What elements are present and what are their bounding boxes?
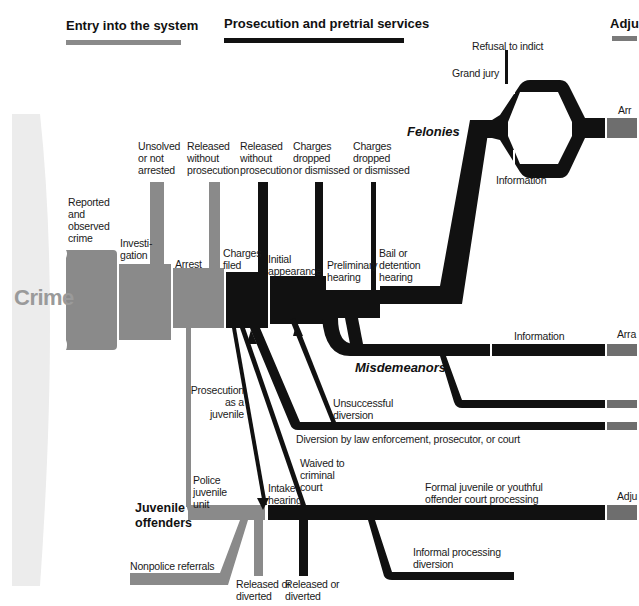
- label-released-2: Released without prosecution: [240, 140, 292, 176]
- label-formal-juvenile: Formal juvenile or youthful offender cou…: [425, 481, 543, 505]
- label-bail: Bail or detention hearing: [379, 247, 420, 283]
- label-intake-hearing: Intake hearing: [268, 482, 302, 506]
- stage-entry-title: Entry into the system: [66, 18, 198, 33]
- label-informal-processing: Informal processing diversion: [413, 546, 501, 570]
- label-released-diverted-2: Released or diverted: [285, 578, 339, 602]
- stage-prosecution-bar: [224, 38, 404, 43]
- label-dropped-2: Charges dropped or dismissed: [353, 140, 410, 176]
- crime-label: Crime: [14, 285, 74, 311]
- label-reported: Reported and observed crime: [68, 196, 110, 244]
- label-adjudication-juv: Adju: [617, 490, 637, 502]
- category-juvenile: Juvenile offenders: [135, 501, 192, 531]
- label-released-diverted-1: Released or diverted: [236, 578, 290, 602]
- label-dropped-1: Charges dropped or dismissed: [293, 140, 350, 176]
- label-arraignment-misd: Arra: [617, 328, 636, 340]
- stage-adjudication-title: Adju: [610, 16, 639, 31]
- label-preliminary-hearing: Preliminary hearing: [327, 259, 377, 283]
- label-arrest: Arrest: [175, 258, 202, 270]
- category-misdemeanors: Misdemeanors: [355, 360, 446, 375]
- label-released-1: Released without prosecution: [187, 140, 239, 176]
- label-prosecution-juvenile: Prosecution as a juvenile: [190, 384, 244, 420]
- adjudication-bars: [607, 118, 637, 520]
- label-grand-jury: Grand jury: [452, 67, 499, 79]
- stage-adjudication-bar: [612, 36, 637, 41]
- label-refusal-to-indict: Refusal to indict: [472, 40, 543, 52]
- label-investigation: Investi- gation: [120, 237, 152, 261]
- category-felonies: Felonies: [407, 124, 460, 139]
- label-arraignment-felony: Arr: [618, 104, 631, 116]
- label-unsolved: Unsolved or not arrested: [138, 140, 180, 176]
- label-initial-appearance: Initial appearance: [268, 253, 321, 277]
- label-waived: Waived to criminal court: [300, 457, 345, 493]
- label-nonpolice-referrals: Nonpolice referrals: [130, 560, 214, 572]
- label-unsuccessful-diversion: Unsuccessful diversion: [333, 397, 393, 421]
- stage-entry-bar: [66, 40, 181, 45]
- label-police-juvenile-unit: Police juvenile unit: [193, 474, 227, 510]
- stage-prosecution-title: Prosecution and pretrial services: [224, 16, 429, 31]
- label-information-felony: Information: [496, 174, 546, 186]
- label-information-misd: Information: [514, 330, 564, 342]
- crime-block: [12, 114, 50, 586]
- label-diversion: Diversion by law enforcement, prosecutor…: [296, 433, 520, 445]
- label-charges-filed: Charges filed: [223, 247, 261, 271]
